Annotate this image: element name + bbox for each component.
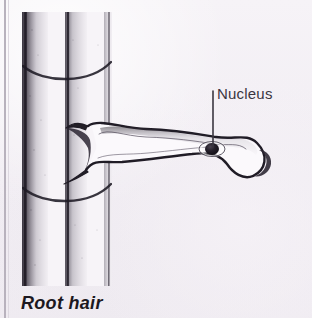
nucleus-label: Nucleus [217,85,273,103]
nucleus [205,143,219,155]
figure-panel: Nucleus Root hair [0,0,312,318]
root-hair-illustration [0,0,312,318]
root-hair-caption: Root hair [21,293,103,314]
